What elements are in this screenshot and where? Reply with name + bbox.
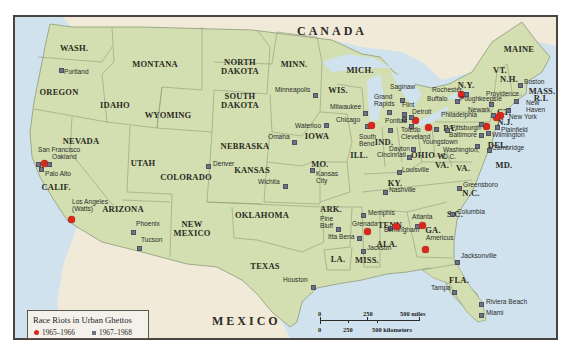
riot-marker-1967-1968-portland	[59, 68, 64, 73]
state-label-nevada: NEVADA	[63, 137, 99, 146]
state-label-nc: N.C.	[462, 189, 479, 198]
state-label-nebraska: NEBRASKA	[221, 142, 270, 151]
state-label-calif: CALIF.	[42, 183, 71, 192]
city-label-omaha: Omaha	[268, 134, 290, 141]
city-label-milwaukee: Milwaukee	[330, 104, 361, 111]
city-label-buffalo: Buffalo	[427, 96, 447, 103]
city-label-south-bend: SouthBend	[359, 134, 376, 147]
riot-marker-1965-1966-cleveland	[425, 124, 432, 131]
red-dot-icon	[34, 330, 39, 335]
riot-marker-1967-1968-louisville	[397, 170, 402, 175]
riot-marker-1967-1968-providence	[514, 99, 519, 104]
city-label-houston: Houston	[283, 277, 308, 284]
state-label-wis: WIS.	[328, 86, 347, 95]
riot-marker-1967-1968-riviera-beach	[479, 302, 484, 307]
city-label-kansas-city: KansasCity	[316, 171, 338, 184]
city-label-atlanta: Atlanta	[412, 214, 433, 221]
city-label-greensboro: Greensboro	[463, 182, 498, 189]
scale-tick	[377, 320, 378, 323]
gray-square-icon	[92, 331, 96, 335]
legend: Race Riots in Urban Ghettos 1965–1966 19…	[27, 310, 149, 339]
city-label-pine-bluff: PineBluff	[320, 216, 333, 229]
riot-marker-1967-1968-tampa	[452, 290, 457, 295]
city-label-oakland: Oakland	[52, 154, 77, 161]
city-label-memphis: Memphis	[368, 210, 395, 217]
riot-marker-1967-1968-buffalo	[455, 99, 460, 104]
riot-marker-1965-1966-atlanta-b	[419, 222, 426, 229]
state-label-arizona: ARIZONA	[102, 205, 144, 214]
legend-item-1967-1968: 1967–1968	[92, 328, 132, 337]
riot-marker-1967-1968-jackson	[361, 249, 366, 254]
state-label-nh: N.H.	[500, 75, 518, 84]
state-label-new-mexico: NEWMEXICO	[173, 220, 210, 237]
city-label-miami: Miami	[486, 310, 504, 317]
scale-tick	[367, 317, 368, 320]
riot-marker-1967-1968-wilmington	[486, 131, 491, 136]
city-label-denver: Denver	[213, 161, 234, 168]
city-label-itta-bena: Itta Bena	[328, 234, 354, 241]
riot-marker-1967-1968-jacksonville	[455, 260, 460, 265]
riot-marker-1967-1968-greensboro	[457, 186, 462, 191]
city-label-palo-alto: Palo Alto	[45, 171, 71, 178]
city-label-minneapolis: Minneapolis	[275, 87, 310, 94]
state-label-idaho: IDAHO	[100, 101, 130, 110]
state-label-la: LA.	[331, 255, 346, 264]
state-label-iowa: IOWA	[305, 132, 329, 141]
scale-miles-250: 250	[363, 310, 373, 317]
riot-marker-1967-1968-kansas-city	[310, 168, 315, 173]
city-label-portland: Portland	[64, 69, 89, 76]
state-label-miss: MISS.	[355, 256, 379, 265]
city-label-waterloo: Waterloo	[295, 123, 321, 130]
city-label-wilmington: Wilmington	[492, 132, 525, 139]
riot-marker-1967-1968-milwaukee	[363, 111, 368, 116]
riot-marker-1967-1968-oakland-b	[47, 162, 52, 167]
riot-marker-1967-1968-miami	[479, 313, 484, 318]
riot-marker-1967-1968-waterloo	[324, 123, 329, 128]
riot-marker-1965-1966-birmingham-b	[393, 223, 400, 230]
state-label-colorado: COLORADO	[160, 173, 212, 182]
city-label-new-haven: NewHaven	[526, 100, 545, 113]
riot-marker-1965-1966-philadelphia	[483, 123, 490, 130]
city-label-columbia: Columbia	[457, 209, 485, 216]
city-label-los-angeles-watts: Los Angeles(Watts)	[72, 199, 108, 212]
city-label-cincinnati: Cincinnati	[377, 152, 406, 159]
riot-marker-1967-1968-tucson	[137, 246, 142, 251]
state-label-va: VA.	[456, 164, 470, 173]
scale-km-250: 250	[343, 326, 353, 333]
riot-marker-1967-1968-youngstown	[434, 127, 439, 132]
legend-label: 1967–1968	[99, 328, 132, 337]
city-label-grand-rapids: GrandRapids	[374, 94, 395, 107]
city-label-youngstown: Youngstown	[422, 139, 458, 146]
riot-marker-1967-1968-omaha	[292, 140, 297, 145]
city-label-baltimore: Baltimore	[449, 132, 477, 139]
state-label-minn: MINN.	[281, 60, 308, 69]
state-label-mich: MICH.	[346, 66, 373, 75]
riot-marker-1967-1968-houston	[311, 285, 316, 290]
state-label-ark: ARK.	[320, 205, 342, 214]
scale-bar: 0 250 500 miles 0 250 500 kilometers	[318, 307, 422, 335]
city-label-tampa: Tampa	[431, 285, 451, 292]
city-label-riviera-beach: Riviera Beach	[486, 299, 527, 306]
state-label-maine: MAINE	[504, 45, 534, 54]
city-label-americus: Americus	[426, 235, 453, 242]
state-label-oregon: OREGON	[40, 88, 79, 97]
riot-marker-1967-1968-detroit-b	[409, 115, 414, 120]
state-label-montana: MONTANA	[132, 60, 178, 69]
city-label-pontiac: Pontiac	[385, 118, 407, 125]
legend-label: 1965–1966	[42, 328, 75, 337]
map-frame: WASH.OREGONIDAHOMONTANAWYOMINGNORTHDAKOT…	[13, 15, 558, 340]
scale-km-500: 500 kilometers	[372, 326, 412, 333]
state-label-utah: UTAH	[131, 159, 156, 168]
city-label-jackson: Jackson	[367, 245, 391, 252]
scale-tick	[348, 320, 349, 323]
city-label-philadelphia: Philadelphia	[441, 112, 477, 119]
city-label-wichita: Wichita	[258, 179, 280, 186]
state-label-kansas: KANSAS	[234, 166, 270, 175]
legend-title: Race Riots in Urban Ghettos	[33, 315, 132, 325]
city-label-louisville: Louisville	[402, 167, 429, 174]
scale-tick	[419, 317, 420, 320]
riot-marker-1967-1968-cambridge	[487, 148, 492, 153]
riot-marker-1967-1968-palo-alto	[39, 167, 44, 172]
riot-marker-1967-1968-dayton	[411, 147, 416, 152]
city-label-rochester: Rochester	[432, 87, 462, 94]
